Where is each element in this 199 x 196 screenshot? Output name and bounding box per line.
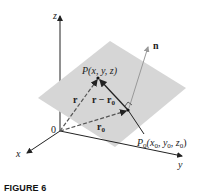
point-p0 <box>126 108 129 111</box>
y-axis-label: y <box>177 159 183 170</box>
vector-r-label: r <box>73 94 78 105</box>
point-p-label: P(x, y, z) <box>81 65 118 77</box>
z-axis-label: z <box>52 10 57 21</box>
point-p0-label: P0(x0, y0, z0) <box>136 137 187 150</box>
origin-label: 0 <box>51 124 56 135</box>
normal-label: n <box>153 40 159 51</box>
point-p <box>96 76 99 79</box>
x-axis-label: x <box>15 148 21 159</box>
figure-caption: FIGURE 6 <box>4 183 46 193</box>
plane-vector-diagram: z y x 0 n P(x, y, z) r r − r0 r0 P0(x0, … <box>0 0 199 196</box>
